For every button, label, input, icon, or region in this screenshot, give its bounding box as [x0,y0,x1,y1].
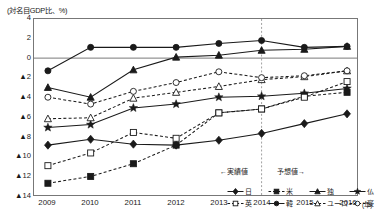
x-tick-label: 2011 [125,198,142,208]
y-tick-label: ▲4 [2,93,31,101]
x-axis-unit-label: (年) [362,200,372,209]
legend-label: 日 [245,187,252,196]
data-point-open-square [45,163,51,169]
data-point-filled-circle [344,43,350,49]
data-point-open-triangle [130,95,137,102]
x-tick-label: 2015 [296,198,313,208]
data-point-filled-diamond [258,129,265,137]
data-point-filled-circle [173,44,179,50]
x-tick-label: 2013 [210,198,227,208]
legend-marker-filled-square [268,187,285,196]
data-point-filled-diamond [215,136,222,144]
y-axis-tick-labels: 420▲2▲4▲6▲8▲10▲12▲14 [0,18,31,196]
data-point-filled-circle [88,44,94,50]
data-point-filled-star [172,100,180,108]
legend-label: 米 [286,187,293,196]
data-point-open-square [173,135,179,141]
y-tick-label: ▲6 [2,113,31,121]
data-point-open-circle [173,80,179,86]
data-point-open-circle [130,88,136,94]
series-豪 [45,68,350,107]
data-point-filled-diamond [87,135,94,143]
data-point-filled-triangle [44,84,51,91]
series-canvas [34,19,357,195]
legend-marker-filled-diamond [227,187,244,196]
data-point-filled-star [129,104,137,112]
y-tick-label: ▲14 [2,192,31,200]
y-tick-label: ▲8 [2,133,31,141]
data-point-filled-star [44,123,52,131]
legend-label: 仏 [367,187,374,196]
legend-marker-filled-triangle [309,187,326,196]
x-tick-label: 2016 [339,198,356,208]
legend-item[interactable]: 米 [268,187,309,196]
y-tick-label: ▲12 [2,172,31,180]
data-point-open-square [344,79,350,85]
data-point-filled-square [274,189,279,194]
x-tick-label: 2012 [167,198,184,208]
series-line-独 [48,46,347,97]
data-point-filled-square [173,142,179,148]
legend-item[interactable]: 独 [309,187,350,196]
data-point-filled-circle [259,38,265,44]
x-tick-label: 2014 [253,198,270,208]
data-point-open-circle [344,68,350,74]
x-tick-label: 2010 [81,198,98,208]
legend-item[interactable]: 日 [227,187,268,196]
data-point-open-square [301,94,307,100]
data-point-filled-diamond [344,110,351,118]
y-tick-label: 2 [2,34,31,42]
plot-area: ←実績値 予想値→ 日米独仏英韓ユーロ豪 [33,18,358,196]
data-point-open-circle [45,94,51,100]
data-point-filled-circle [45,68,51,74]
data-point-filled-star [355,188,361,194]
data-point-open-square [88,150,94,156]
y-tick-label: 4 [2,14,31,22]
legend-label: 独 [327,187,334,196]
data-point-filled-circle [216,40,222,46]
data-point-filled-square [130,161,136,167]
legend-item[interactable]: 仏 [349,187,379,196]
y-tick-label: ▲10 [2,152,31,160]
data-point-open-square [130,129,136,135]
data-point-filled-star [86,120,94,128]
x-tick-label: 2009 [38,198,55,208]
x-axis-tick-labels: 20092010201120122013201420152016(年) [33,198,358,214]
data-point-open-square [216,110,222,116]
data-point-open-square [259,106,265,112]
data-point-filled-diamond [44,141,51,149]
data-point-open-circle [216,69,222,75]
y-tick-label: ▲2 [2,73,31,81]
data-point-filled-diamond [233,188,238,194]
data-point-filled-circle [130,44,136,50]
data-point-filled-star [215,93,223,101]
data-point-open-circle [301,73,307,79]
data-point-filled-circle [301,44,307,50]
y-tick-label: 0 [2,54,31,62]
data-point-filled-square [45,180,51,186]
data-point-open-circle [88,101,94,107]
annotation-actual-values: ←実績値 [220,167,248,176]
annotation-forecast-values: 予想値→ [277,167,305,176]
legend-marker-filled-star [349,187,366,196]
data-point-filled-square [88,173,94,179]
data-point-filled-diamond [301,120,308,128]
data-point-open-circle [259,75,265,81]
data-point-open-triangle [87,114,94,121]
data-point-filled-diamond [130,140,137,148]
